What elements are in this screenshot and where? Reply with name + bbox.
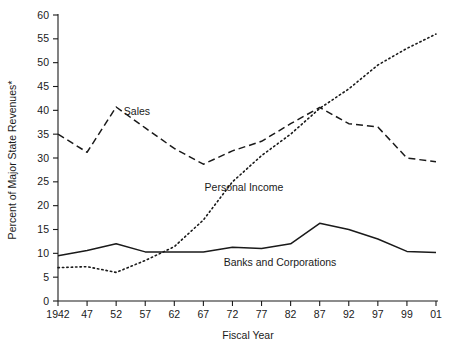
series-line-personal-income <box>58 34 436 272</box>
y-tick-label: 0 <box>43 295 49 307</box>
series-line-sales <box>58 107 436 164</box>
y-tick-label: 40 <box>37 104 49 116</box>
y-tick-label: 25 <box>37 175 49 187</box>
y-tick-label: 15 <box>37 223 49 235</box>
x-tick-label: 57 <box>139 308 151 320</box>
y-tick-label: 30 <box>37 152 49 164</box>
y-tick-label: 10 <box>37 247 49 259</box>
x-tick-label: 82 <box>285 308 297 320</box>
y-tick-label: 45 <box>37 80 49 92</box>
x-tick-label: 52 <box>110 308 122 320</box>
series-annotations: SalesPersonal IncomeBanks and Corporatio… <box>124 105 336 268</box>
series-label-sales: Sales <box>124 105 150 117</box>
y-tick-label: 20 <box>37 199 49 211</box>
x-tick-label: 1942 <box>46 308 70 320</box>
series-label-personal-income: Personal Income <box>205 181 284 193</box>
x-axis: 194247525762677277828792979901 <box>46 301 442 320</box>
chart-container: 051015202530354045505560 194247525762677… <box>0 0 453 349</box>
y-tick-label: 60 <box>37 9 49 21</box>
line-chart: 051015202530354045505560 194247525762677… <box>0 0 453 349</box>
x-tick-label: 01 <box>430 308 442 320</box>
y-tick-label: 5 <box>43 271 49 283</box>
x-tick-label: 77 <box>256 308 268 320</box>
y-axis-title: Percent of Major State Revenues* <box>6 81 18 240</box>
x-tick-label: 97 <box>372 308 384 320</box>
series-line-banks-and-corporations <box>58 223 436 255</box>
x-tick-label: 99 <box>401 308 413 320</box>
y-tick-label: 55 <box>37 32 49 44</box>
x-axis-title: Fiscal Year <box>222 329 274 341</box>
y-tick-label: 35 <box>37 128 49 140</box>
series-layer <box>58 34 436 272</box>
x-tick-label: 67 <box>198 308 210 320</box>
y-tick-label: 50 <box>37 56 49 68</box>
x-tick-label: 72 <box>227 308 239 320</box>
x-tick-label: 62 <box>168 308 180 320</box>
x-tick-label: 87 <box>314 308 326 320</box>
x-tick-label: 47 <box>81 308 93 320</box>
series-label-banks-and-corporations: Banks and Corporations <box>224 256 337 268</box>
x-tick-label: 92 <box>343 308 355 320</box>
y-axis: 051015202530354045505560 <box>37 9 58 307</box>
